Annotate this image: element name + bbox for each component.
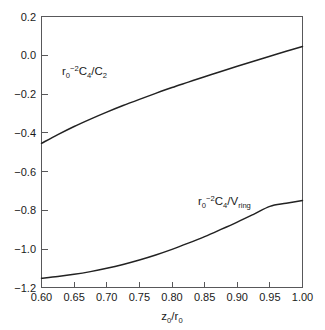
x-tick-label: 0.80 bbox=[161, 291, 182, 303]
series1-base3: C bbox=[95, 65, 103, 77]
series1-sup1: −2 bbox=[70, 64, 79, 73]
x-axis-tick-labels: 0.60 0.65 0.70 0.75 0.80 0.85 0.90 0.95 … bbox=[31, 291, 313, 303]
x-tick-label: 0.65 bbox=[63, 291, 84, 303]
y-tick-label: −0.6 bbox=[14, 166, 36, 178]
y-tick-label: −1.0 bbox=[14, 243, 36, 255]
x-tick-label: 0.90 bbox=[227, 291, 248, 303]
series2-base2: C bbox=[215, 195, 223, 207]
x-tick-label: 0.60 bbox=[31, 291, 52, 303]
line-chart: 0.2 0.0 −0.2 −0.4 −0.6 −0.8 −1.0 −1.2 0.… bbox=[0, 0, 325, 330]
chart-background bbox=[0, 0, 325, 330]
y-tick-label: −0.2 bbox=[14, 88, 36, 100]
x-tick-label: 0.95 bbox=[259, 291, 280, 303]
series2-sub3: ring bbox=[238, 201, 251, 210]
y-tick-label: 0.0 bbox=[21, 49, 36, 61]
y-tick-label: −0.4 bbox=[14, 127, 36, 139]
y-tick-label: −0.8 bbox=[14, 204, 36, 216]
x-tick-label: 0.70 bbox=[96, 291, 117, 303]
chart-figure: 0.2 0.0 −0.2 −0.4 −0.6 −0.8 −1.0 −1.2 0.… bbox=[0, 0, 325, 330]
series1-base2: C bbox=[79, 65, 87, 77]
series1-sub3: 2 bbox=[103, 71, 107, 80]
y-tick-label: 0.2 bbox=[21, 11, 36, 23]
series2-sup1: −2 bbox=[206, 194, 215, 203]
x-tick-label: 0.75 bbox=[129, 291, 150, 303]
x-tick-label: 1.00 bbox=[292, 291, 313, 303]
x-axis-title-sub2: 0 bbox=[178, 316, 182, 325]
x-tick-label: 0.85 bbox=[194, 291, 215, 303]
